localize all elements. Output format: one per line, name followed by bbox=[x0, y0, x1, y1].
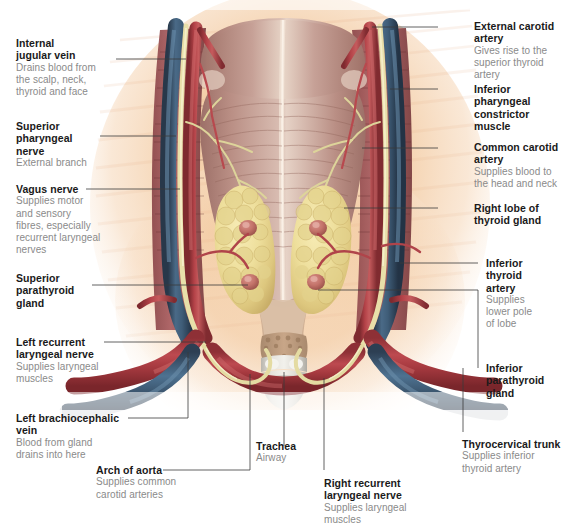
label-desc: Airway bbox=[256, 452, 336, 464]
label-desc: Supplies motorand sensoryfibres, especia… bbox=[16, 195, 124, 256]
label-title: Common carotidartery bbox=[474, 141, 566, 166]
label-desc: External branch bbox=[16, 157, 104, 169]
anatomy-figure: Internaljugular vein Drains blood fromth… bbox=[0, 0, 566, 526]
label-title: Thyrocervical trunk bbox=[462, 438, 566, 450]
label-right-lobe-of-thyroid-gland: Right lobe ofthyroid gland bbox=[474, 202, 566, 227]
label-thyrocervical-trunk: Thyrocervical trunk Supplies inferiorthy… bbox=[462, 438, 566, 475]
label-right-recurrent-laryngeal-nerve: Right recurrentlaryngeal nerve Supplies … bbox=[324, 477, 428, 526]
label-left-brachiocephalic-vein: Left brachiocephalicvein Blood from glan… bbox=[16, 412, 134, 461]
label-trachea: Trachea Airway bbox=[256, 440, 336, 465]
label-superior-pharyngeal-nerve: Superiorpharyngealnerve External branch bbox=[16, 120, 104, 169]
label-title: External carotidartery bbox=[474, 20, 566, 45]
label-title: Left brachiocephalicvein bbox=[16, 412, 134, 437]
label-desc: Gives rise to thesuperior thyroidartery bbox=[474, 45, 566, 82]
label-external-carotid-artery: External carotidartery Gives rise to the… bbox=[474, 20, 566, 81]
label-title: Inferiorthyroidartery bbox=[486, 257, 558, 294]
label-desc: Supplies laryngealmuscles bbox=[16, 361, 116, 385]
label-superior-parathyroid-gland: Superiorparathyroidgland bbox=[16, 272, 98, 309]
label-desc: Supplieslower poleof lobe bbox=[486, 294, 558, 331]
label-inferior-thyroid-artery: Inferiorthyroidartery Supplieslower pole… bbox=[486, 257, 558, 331]
label-desc: Supplies inferiorthyroid artery bbox=[462, 450, 566, 474]
label-arch-of-aorta: Arch of aorta Supplies commoncarotid art… bbox=[96, 464, 200, 501]
label-title: Inferiorparathyroidgland bbox=[486, 362, 558, 399]
label-internal-jugular-vein: Internaljugular vein Drains blood fromth… bbox=[16, 37, 120, 98]
label-title: Vagus nerve bbox=[16, 183, 124, 195]
label-title: Inferior pharyngealconstrictor muscle bbox=[474, 83, 566, 132]
label-title: Trachea bbox=[256, 440, 336, 452]
label-left-recurrent-laryngeal-nerve: Left recurrentlaryngeal nerve Supplies l… bbox=[16, 336, 116, 385]
label-desc: Blood from glanddrains into here bbox=[16, 437, 134, 461]
label-inferior-parathyroid-gland: Inferiorparathyroidgland bbox=[486, 362, 558, 399]
label-title: Internaljugular vein bbox=[16, 37, 120, 62]
label-desc: Drains blood fromthe scalp, neck,thyroid… bbox=[16, 62, 120, 99]
label-desc: Supplies commoncarotid arteries bbox=[96, 476, 200, 500]
label-desc: Supplies laryngealmuscles bbox=[324, 502, 428, 526]
label-inferior-pharyngeal-constrictor-muscle: Inferior pharyngealconstrictor muscle bbox=[474, 83, 566, 132]
label-common-carotid-artery: Common carotidartery Supplies blood toth… bbox=[474, 141, 566, 190]
label-title: Right lobe ofthyroid gland bbox=[474, 202, 566, 227]
label-title: Superiorparathyroidgland bbox=[16, 272, 98, 309]
label-title: Right recurrentlaryngeal nerve bbox=[324, 477, 428, 502]
label-title: Arch of aorta bbox=[96, 464, 200, 476]
label-title: Superiorpharyngealnerve bbox=[16, 120, 104, 157]
label-vagus-nerve: Vagus nerve Supplies motorand sensoryfib… bbox=[16, 183, 124, 256]
label-desc: Supplies blood tothe head and neck bbox=[474, 166, 566, 190]
label-title: Left recurrentlaryngeal nerve bbox=[16, 336, 116, 361]
